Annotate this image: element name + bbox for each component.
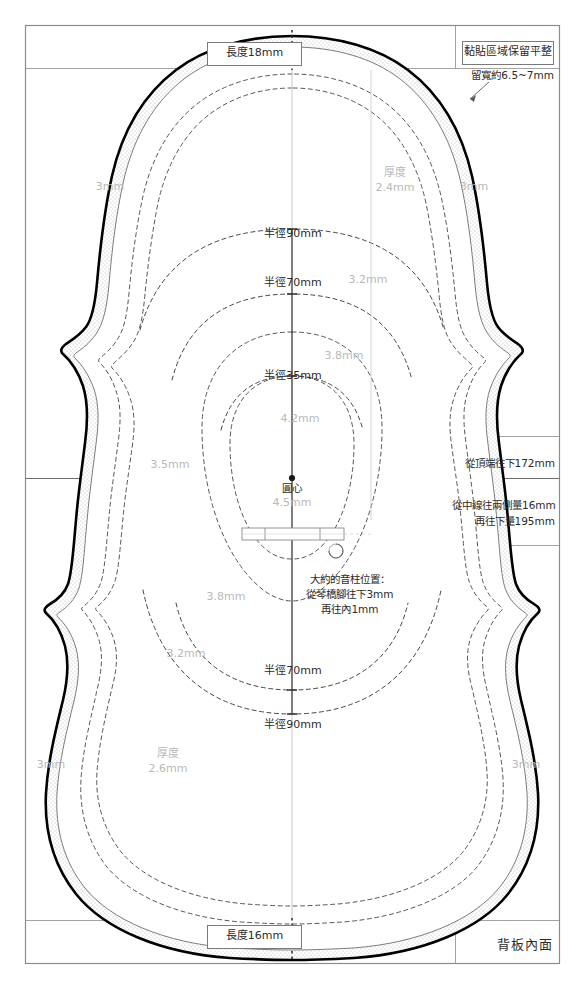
glue-width-leader <box>470 82 489 102</box>
edge-thickness-top-left: 3mm <box>89 180 131 195</box>
center-point-label: 圓心 <box>252 482 332 496</box>
bottom-plate-thickness: 厚度 2.6mm <box>140 747 196 776</box>
thickness-upper-4-2: 4.2mm <box>276 412 324 427</box>
soundpost-note: 大約的音柱位置： 從琴橋腳往下3mm 再往內1mm <box>290 572 410 618</box>
top-plate-thickness: 厚度 2.4mm <box>367 166 423 195</box>
thickness-upper-3-2: 3.2mm <box>344 273 392 288</box>
from-top-172-note: 從頂端往下172mm <box>455 456 555 472</box>
thickness-upper-3-8: 3.8mm <box>320 349 368 364</box>
edge-thickness-bottom-left: 3mm <box>30 758 72 773</box>
top-plate-thickness-value: 2.4mm <box>367 181 423 196</box>
soundpost-note-line2: 從琴橋腳往下3mm <box>290 587 410 602</box>
from-center-note-line1: 從中線往兩側量16mm <box>452 498 555 514</box>
soundpost-note-line1: 大約的音柱位置： <box>290 572 410 587</box>
glue-width-note: 留寬約6.5~7mm <box>454 68 554 84</box>
drawing-sheet: 長度18mm 黏貼區域保留平整 留寬約6.5~7mm 3mm 3mm 3.5mm… <box>0 0 585 989</box>
glue-flat-box: 黏貼區域保留平整 <box>462 41 554 65</box>
radius-lower-90: 半徑90mm <box>240 718 346 733</box>
center-point-group: 圓心 4.5mm <box>252 482 332 510</box>
top-length-box: 長度18mm <box>207 42 302 66</box>
bottom-plate-thickness-value: 2.6mm <box>140 762 196 777</box>
from-center-note-line2: 再往下量195mm <box>452 514 555 530</box>
edge-thickness-top-right: 3mm <box>453 180 495 195</box>
radius-upper-90: 半徑90mm <box>240 227 346 242</box>
center-thickness-value: 4.5mm <box>252 496 332 511</box>
soundpost-note-line3: 再往內1mm <box>290 602 410 617</box>
bottom-plate-thickness-label: 厚度 <box>140 747 196 762</box>
edge-thickness-bottom-right: 3mm <box>505 758 547 773</box>
thickness-lower-3-2: 3.2mm <box>162 647 210 662</box>
thickness-lower-3-8: 3.8mm <box>202 590 250 605</box>
page-title: 背板內面 <box>497 936 553 953</box>
bottom-length-box: 長度16mm <box>207 925 302 949</box>
edge-thickness-mid-left: 3.5mm <box>146 458 194 473</box>
radius-lower-70: 半徑70mm <box>240 664 346 679</box>
top-plate-thickness-label: 厚度 <box>367 166 423 181</box>
radius-upper-70: 半徑70mm <box>240 276 346 291</box>
radius-upper-35: 半徑35mm <box>240 369 346 384</box>
from-center-note: 從中線往兩側量16mm 再往下量195mm <box>452 498 555 530</box>
